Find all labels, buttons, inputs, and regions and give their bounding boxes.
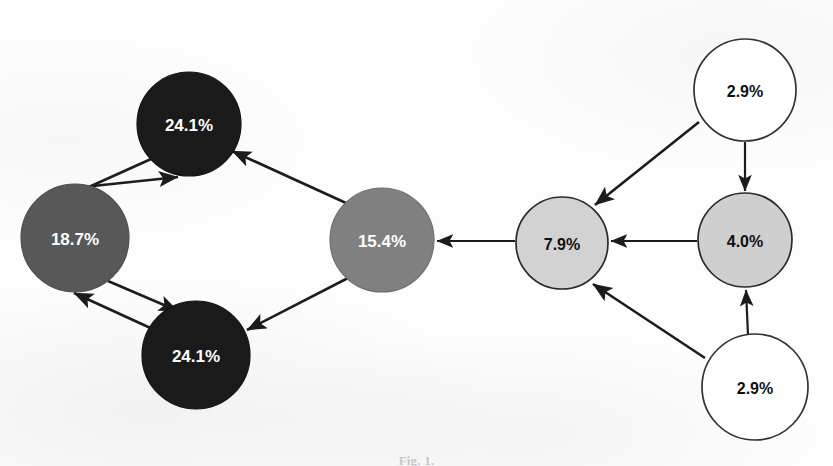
caption-label: Fig. 1. — [399, 453, 435, 466]
edge-n2-to-n3 — [108, 281, 178, 311]
graph-node[interactable]: 18.7% — [21, 184, 129, 292]
graph-node[interactable]: 24.1% — [137, 72, 241, 176]
figure-container: 24.1%18.7%24.1%15.4%7.9%4.0%2.9%2.9% Fig… — [0, 0, 833, 466]
node-label-n2: 18.7% — [51, 230, 99, 249]
graph-node[interactable]: 4.0% — [698, 193, 792, 287]
graph-node[interactable]: 2.9% — [702, 334, 808, 440]
graph-node[interactable]: 24.1% — [142, 301, 250, 409]
edge-n7-to-n5 — [595, 122, 699, 205]
graph-node[interactable]: 7.9% — [516, 197, 608, 289]
node-label-n7: 2.9% — [727, 83, 763, 100]
node-label-n1: 24.1% — [165, 116, 213, 135]
edge-n4-to-n1 — [232, 151, 346, 203]
node-label-n6: 4.0% — [727, 233, 763, 250]
node-label-n8: 2.9% — [737, 380, 773, 397]
graph-node[interactable]: 2.9% — [694, 39, 796, 141]
figure-caption: Fig. 1. — [0, 453, 833, 466]
graph-node[interactable]: 15.4% — [330, 188, 434, 292]
node-label-n3: 24.1% — [172, 347, 220, 366]
edge-n3-to-n2 — [74, 293, 157, 331]
edge-n8-to-n6 — [746, 290, 748, 335]
network-diagram: 24.1%18.7%24.1%15.4%7.9%4.0%2.9%2.9% — [0, 0, 833, 466]
edge-n8-to-n5 — [593, 284, 705, 358]
nodes-layer: 24.1%18.7%24.1%15.4%7.9%4.0%2.9%2.9% — [21, 39, 808, 440]
edge-n4-to-n3 — [247, 278, 348, 330]
node-label-n5: 7.9% — [544, 236, 580, 253]
node-label-n4: 15.4% — [358, 232, 406, 251]
